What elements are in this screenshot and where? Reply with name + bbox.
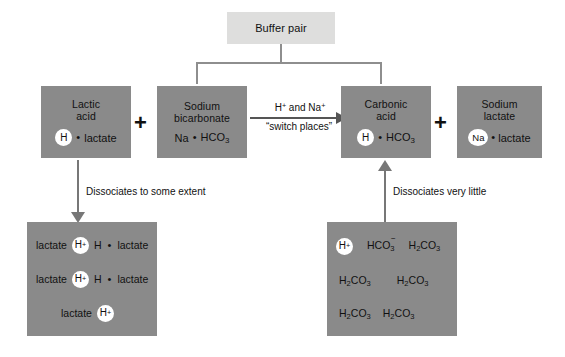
carbonic-acid-line1: Carbonic (365, 98, 408, 110)
lactate-label: lactate (36, 239, 67, 251)
buffer-pair-box: Buffer pair (227, 12, 335, 44)
hydrogen-label: H (94, 273, 102, 285)
sodium-bicarbonate-box: Sodium bicarbonate Na • HCO3 (157, 86, 247, 158)
lactate-label: lactate (61, 307, 92, 319)
right-dissociation-arrow-shaft (384, 170, 386, 222)
lactic-acid-line1: Lactic (72, 98, 100, 110)
hydrogen-label: H (94, 239, 102, 251)
sodium-lactate-title: Sodium lactate (481, 98, 517, 122)
carbonic-acid-label: H2CO3 (409, 239, 441, 253)
sodium-bicarbonate-formula: Na • HCO3 (175, 131, 230, 145)
reaction-arrow-bottom-label: “switch places” (252, 121, 346, 132)
lactic-acid-dissociation-box: lactate H+ H • lactate lactate H+ H • la… (27, 222, 157, 336)
hydrogen-ion-circle-icon: H+ (336, 238, 353, 255)
sodium-label: Na (175, 132, 189, 144)
bicarbonate-label: HCO3 (386, 131, 415, 145)
carbonic-acid-label: H2CO3 (383, 307, 415, 321)
lactic-acid-line2: acid (76, 110, 96, 122)
bond-dot-icon: • (490, 132, 496, 143)
reaction-arrow-shaft (250, 117, 338, 119)
connector-branch-right (380, 62, 382, 84)
lactate-label: lactate (498, 132, 530, 144)
dissociation-row: H2CO3 H2CO3 (327, 307, 457, 321)
sodium-lactate-formula: Na • lactate (468, 129, 530, 146)
hydrogen-ion-circle-icon: H+ (72, 237, 89, 254)
connector-branch-left (196, 62, 198, 84)
dissociation-row: lactate H+ H • lactate (27, 271, 157, 288)
dissociation-row: lactate H+ (27, 305, 157, 322)
carbonic-acid-line2: acid (376, 110, 396, 122)
reaction-arrow-top-label: H+ and Na+ (252, 101, 348, 113)
sodium-lactate-line1: Sodium (481, 98, 517, 110)
plus-sign-right: + (434, 112, 447, 134)
sodium-circle-icon: Na (468, 129, 488, 146)
lactic-acid-box: Lactic acid H • lactate (41, 86, 131, 158)
carbonic-acid-label: H2CO3 (397, 274, 429, 288)
lactate-label: lactate (117, 239, 148, 251)
carbonic-acid-title: Carbonic acid (365, 98, 408, 122)
diagram-canvas: Buffer pair Lactic acid H • lactate + So… (0, 0, 565, 357)
dissociation-row: H2CO3 H2CO3 (327, 274, 457, 288)
lactate-label: lactate (117, 273, 148, 285)
left-dissociation-caption: Dissociates to some extent (86, 186, 206, 197)
bond-dot-icon: • (107, 274, 113, 285)
hydrogen-ion-circle-icon: H+ (72, 271, 89, 288)
lactate-label: lactate (84, 132, 116, 144)
left-dissociation-arrow-shaft (77, 160, 79, 214)
right-dissociation-arrow-head-icon (378, 160, 392, 171)
bicarbonate-ion-label: HCO3− (367, 239, 395, 253)
bond-dot-icon: • (75, 132, 81, 143)
carbonic-acid-label: H2CO3 (339, 274, 371, 288)
carbonic-acid-formula: H • HCO3 (357, 129, 415, 146)
carbonic-acid-dissociation-box: H+ HCO3− H2CO3 H2CO3 H2CO3 H2CO3 H2CO3 (327, 222, 457, 336)
connector-crossbar (196, 62, 382, 64)
buffer-pair-label: Buffer pair (255, 22, 307, 34)
sodium-lactate-line2: lactate (484, 110, 516, 122)
plus-sign-left: + (134, 112, 147, 134)
dissociation-row: lactate H+ H • lactate (27, 237, 157, 254)
bond-dot-icon: • (192, 132, 198, 143)
dissociation-row: H+ HCO3− H2CO3 (327, 238, 457, 255)
sodium-bicarbonate-title: Sodium bicarbonate (174, 100, 230, 124)
lactate-label: lactate (36, 273, 67, 285)
right-dissociation-caption: Dissociates very little (393, 186, 486, 197)
sodium-bicarbonate-line2: bicarbonate (174, 112, 230, 124)
bond-dot-icon: • (377, 132, 383, 143)
hydrogen-circle-icon: H (55, 129, 72, 146)
lactic-acid-formula: H • lactate (55, 129, 116, 146)
sodium-lactate-box: Sodium lactate Na • lactate (457, 86, 542, 158)
hydrogen-ion-circle-icon: H+ (97, 305, 114, 322)
connector-stem (280, 44, 282, 63)
carbonic-acid-label: H2CO3 (339, 307, 371, 321)
hydrogen-circle-icon: H (357, 129, 374, 146)
bond-dot-icon: • (107, 240, 113, 251)
bicarbonate-label: HCO3 (201, 131, 230, 145)
lactic-acid-title: Lactic acid (72, 98, 100, 122)
carbonic-acid-box: Carbonic acid H • HCO3 (341, 86, 431, 158)
sodium-bicarbonate-line1: Sodium (184, 100, 220, 112)
